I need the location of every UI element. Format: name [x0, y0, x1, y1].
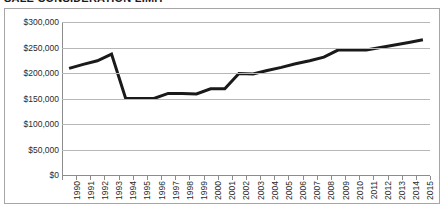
- x-axis-tick-label: 1996: [158, 181, 166, 200]
- y-axis-tick-label: $250,000: [7, 44, 59, 52]
- gridline: [62, 124, 430, 125]
- x-axis-tick: [274, 176, 275, 180]
- y-axis-tick-label: $300,000: [7, 18, 59, 26]
- x-axis-tick-label: 1999: [200, 181, 208, 200]
- x-axis-tick-label: 1995: [143, 181, 151, 200]
- x-axis-tick-label: 1997: [172, 181, 180, 200]
- x-axis-tick: [218, 176, 219, 180]
- x-axis-tick: [430, 176, 431, 180]
- x-axis-tick-label: 2004: [271, 181, 279, 200]
- x-axis-tick-label: 2010: [356, 181, 364, 200]
- chart-frame: $0$50,000$100,000$150,000$200,000$250,00…: [4, 8, 440, 204]
- x-axis-tick: [147, 176, 148, 180]
- x-axis-tick: [402, 176, 403, 180]
- x-axis-tick: [359, 176, 360, 180]
- x-axis-tick: [232, 176, 233, 180]
- x-axis-tick-label: 1991: [87, 181, 95, 200]
- y-axis-tick-label: $200,000: [7, 69, 59, 77]
- x-axis-tick: [76, 176, 77, 180]
- x-axis-tick-label: 1992: [101, 181, 109, 200]
- x-axis-tick: [133, 176, 134, 180]
- x-axis-tick: [62, 176, 63, 180]
- x-axis-tick: [388, 176, 389, 180]
- x-axis-tick-label: 1998: [186, 181, 194, 200]
- x-axis-tick-label: 2011: [370, 181, 378, 199]
- x-axis-tick-label: 2000: [214, 181, 222, 200]
- x-axis-tick: [288, 176, 289, 180]
- y-axis-tick-label: $0: [7, 171, 59, 179]
- x-axis-tick-label: 2001: [228, 181, 236, 200]
- x-axis-tick: [204, 176, 205, 180]
- y-axis-tick-label: $50,000: [7, 146, 59, 154]
- x-axis-tick: [317, 176, 318, 180]
- x-axis-tick: [373, 176, 374, 180]
- x-axis-tick: [303, 176, 304, 180]
- y-axis-tick-label: $100,000: [7, 120, 59, 128]
- x-axis-tick: [104, 176, 105, 180]
- gridline: [62, 48, 430, 49]
- x-axis-tick-label: 1993: [115, 181, 123, 200]
- x-axis-labels: 1990199119921993199419951996199719981999…: [62, 181, 430, 211]
- x-axis-tick-label: 1994: [129, 181, 137, 200]
- x-axis-tick: [119, 176, 120, 180]
- x-axis-tick: [416, 176, 417, 180]
- x-axis-tick-label: 2003: [257, 181, 265, 200]
- x-axis-tick: [246, 176, 247, 180]
- x-axis-tick: [189, 176, 190, 180]
- gridline: [62, 73, 430, 74]
- x-axis-tick: [331, 176, 332, 180]
- gridline: [62, 99, 430, 100]
- x-axis-tick-label: 2014: [412, 181, 420, 200]
- x-axis-tick: [345, 176, 346, 180]
- x-axis-tick-label: 2012: [384, 181, 392, 200]
- x-axis-tick-label: 1990: [73, 181, 81, 200]
- x-axis-tick-label: 2009: [342, 181, 350, 200]
- x-axis-tick: [175, 176, 176, 180]
- x-axis-tick-label: 2002: [242, 181, 250, 200]
- x-axis-tick: [260, 176, 261, 180]
- plot-area: [62, 22, 430, 175]
- x-axis-tick-label: 2007: [313, 181, 321, 200]
- y-axis-tick-label: $150,000: [7, 95, 59, 103]
- gridline: [62, 22, 430, 23]
- x-axis-tick: [161, 176, 162, 180]
- x-axis-tick: [90, 176, 91, 180]
- gridline: [62, 150, 430, 151]
- x-axis-tick-label: 2013: [398, 181, 406, 200]
- x-axis-tick-label: 2008: [327, 181, 335, 200]
- chart-title: SALE CONSIDERATION LIMIT: [4, 0, 164, 4]
- x-axis-tick-label: 2005: [285, 181, 293, 200]
- x-axis-tick-label: 2006: [299, 181, 307, 200]
- y-axis-labels: $0$50,000$100,000$150,000$200,000$250,00…: [5, 22, 59, 175]
- x-axis-tick-label: 2015: [426, 181, 434, 200]
